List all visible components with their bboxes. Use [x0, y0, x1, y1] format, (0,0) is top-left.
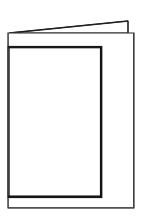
inner-panel-shape [9, 47, 102, 197]
illustration-canvas: Black outline drawing of a blank folded … [0, 0, 146, 219]
folded-card-drawing [0, 0, 146, 219]
